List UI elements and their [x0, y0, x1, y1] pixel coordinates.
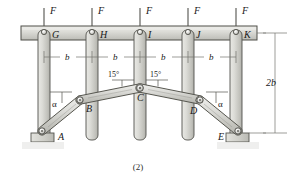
joint-label-A: A [57, 131, 65, 142]
ground-shadow-A [22, 142, 64, 149]
load-label-F-2: F [97, 5, 105, 16]
column-H [86, 30, 98, 140]
joint-label-B: B [86, 103, 92, 114]
height-label-2b: 2b [266, 77, 276, 88]
column-J [182, 30, 194, 140]
load-label-F-1: F [49, 5, 57, 16]
pin-E-center [237, 130, 239, 132]
pin-B-center [79, 99, 81, 101]
span-dimension-group [44, 51, 236, 63]
angle-label-alpha-right: α [218, 99, 223, 109]
span-label-b-2: b [113, 52, 118, 62]
pin-H [89, 29, 94, 34]
joint-label-E: E [217, 131, 224, 142]
angle-label-15-right: 15° [150, 70, 161, 79]
load-label-F-3: F [145, 5, 153, 16]
joint-label-J: J [196, 29, 201, 40]
truss-diagram-svg: F F F F F G H I J K b b b b 2b 15° 15° α… [0, 0, 291, 181]
joint-label-I: I [147, 29, 152, 40]
span-label-b-3: b [161, 52, 166, 62]
pin-K [233, 29, 238, 34]
joint-label-H: H [99, 29, 108, 40]
pin-D-center [199, 99, 201, 101]
pin-I [137, 29, 142, 34]
pin-A-center [41, 130, 43, 132]
joint-label-D: D [189, 105, 198, 116]
ground-shadow-E [217, 142, 259, 149]
pin-G [41, 29, 46, 34]
pin-C-center [139, 87, 141, 89]
joint-label-C: C [137, 92, 144, 103]
angle-label-15-left: 15° [108, 70, 119, 79]
load-label-F-4: F [193, 5, 201, 16]
span-label-b-1: b [65, 52, 70, 62]
joint-label-K: K [243, 29, 252, 40]
angle-label-alpha-left: α [52, 99, 57, 109]
pin-J [185, 29, 190, 34]
figure-caption: (2) [133, 162, 144, 172]
load-lines-group [44, 8, 236, 27]
span-label-b-4: b [209, 52, 214, 62]
truss-figure: F F F F F G H I J K b b b b 2b 15° 15° α… [0, 0, 291, 181]
joint-label-G: G [52, 29, 59, 40]
load-label-F-5: F [241, 5, 249, 16]
